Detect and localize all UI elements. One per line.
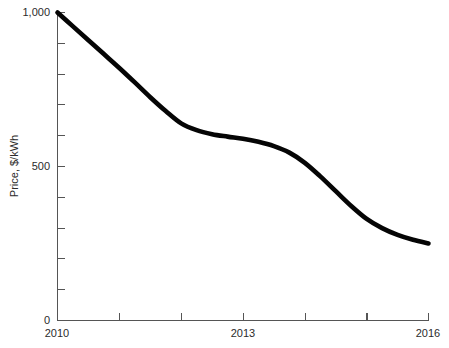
line-chart: 1,000 500 0 2010 2013 2016 Price, $/kWh	[0, 0, 449, 348]
y-tick-label-1000: 1,000	[22, 6, 50, 18]
x-tick-label-2010: 2010	[45, 327, 69, 339]
y-tick-label-0: 0	[44, 314, 50, 326]
chart-canvas: 1,000 500 0 2010 2013 2016 Price, $/kWh	[0, 0, 449, 348]
y-axis-title: Price, $/kWh	[8, 135, 20, 197]
x-tick-label-2013: 2013	[231, 327, 255, 339]
x-tick-label-2016: 2016	[416, 327, 440, 339]
y-tick-label-500: 500	[32, 160, 50, 172]
chart-background	[0, 0, 449, 348]
